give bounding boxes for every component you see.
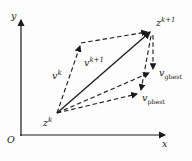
zk1-superscript: k+1 (161, 16, 176, 24)
origin-label: O (7, 134, 15, 145)
vector-vk1-label: vk+1 (84, 56, 104, 68)
point-zk1-label: zk+1 (155, 16, 176, 28)
vector-vk1-arrow (57, 32, 150, 113)
vk1-superscript: k+1 (89, 56, 104, 64)
zk-superscript: k (48, 116, 52, 124)
vector-vk-label: vk (52, 69, 62, 81)
vector-vgbest-arrow (57, 73, 149, 113)
vgbest-subscript: gbest (164, 73, 182, 81)
zk1-to-vpbest-dashed-line (141, 36, 151, 90)
x-axis-label: x (162, 138, 168, 149)
vk-superscript: k (57, 69, 61, 77)
y-axis-label: y (10, 10, 17, 21)
point-zk-label: zk (42, 116, 52, 128)
diagram-canvas: y x O zk zk+1 vk vk+1 vgbest vpbest (0, 0, 192, 161)
vpbest-subscript: pbest (147, 98, 165, 106)
vk-tip-to-zk1-dashed-line (81, 32, 147, 43)
vector-vgbest-label: vgbest (159, 67, 182, 81)
pso-velocity-diagram: y x O zk zk+1 vk vk+1 vgbest vpbest (0, 0, 192, 161)
vector-vpbest-label: vpbest (142, 92, 165, 106)
vector-vpbest-arrow (57, 94, 137, 113)
